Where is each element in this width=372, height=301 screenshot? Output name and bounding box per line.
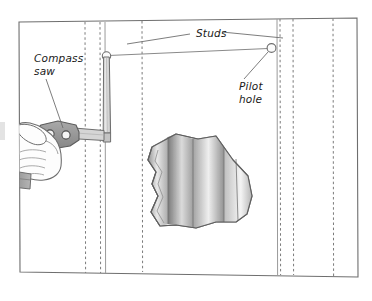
page-edge-artifact bbox=[0, 122, 5, 140]
illustration-canvas: Studs Compass saw Pilot hole bbox=[0, 0, 372, 301]
compass-saw-blade bbox=[103, 57, 110, 142]
label-compass-saw-line2: saw bbox=[34, 65, 55, 77]
drywall-cutting-figure: Studs Compass saw Pilot hole bbox=[0, 0, 372, 301]
label-pilot-hole-line1: Pilot bbox=[239, 80, 263, 92]
label-pilot-hole-line2: hole bbox=[239, 93, 262, 105]
pilot-hole-right bbox=[267, 44, 276, 53]
saw-handle-rivet-2 bbox=[62, 131, 70, 139]
label-studs: Studs bbox=[196, 27, 227, 39]
cutout-band-3 bbox=[193, 136, 224, 228]
drywall-seam-right bbox=[277, 19, 278, 275]
label-compass-saw-line1: Compass bbox=[34, 52, 84, 64]
cutout-band-2 bbox=[168, 134, 193, 227]
sleeve-cuff bbox=[12, 171, 31, 189]
